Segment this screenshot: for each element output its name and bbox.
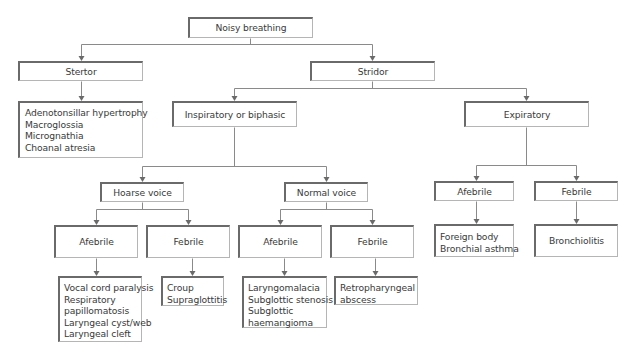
node-hoarse-afebrile: Afebrile xyxy=(54,225,138,258)
node-normal-voice: Normal voice xyxy=(284,182,368,202)
cause-item: abscess xyxy=(340,294,413,306)
cause-item: Respiratory xyxy=(64,294,140,306)
cause-item: Laryngeal cleft xyxy=(64,328,140,340)
node-label: Afebrile xyxy=(263,236,297,248)
node-label: Stridor xyxy=(358,66,388,78)
node-label: Hoarse voice xyxy=(113,187,171,199)
node-expiratory: Expiratory xyxy=(464,101,589,127)
node-label: Noisy breathing xyxy=(215,22,286,34)
node-normal-afebrile-causes: Laryngomalacia Subglottic stenosis Subgl… xyxy=(242,276,327,328)
cause-item: Foreign body xyxy=(440,231,512,243)
node-label: Afebrile xyxy=(79,236,113,248)
node-normal-afebrile: Afebrile xyxy=(238,225,322,258)
cause-item: Laryngeal cyst/web xyxy=(64,317,140,329)
cause-item: Micrognathia xyxy=(25,130,138,142)
node-label: Febrile xyxy=(357,236,387,248)
node-inspiratory-biphasic: Inspiratory or biphasic xyxy=(172,101,297,127)
node-normal-febrile-causes: Retropharyngeal abscess xyxy=(334,276,418,305)
node-label: Expiratory xyxy=(504,109,550,121)
node-expiratory-afebrile-causes: Foreign body Bronchial asthma xyxy=(434,224,514,257)
cause-item: Croup xyxy=(167,282,219,294)
cause-item: Adenotonsillar hypertrophy xyxy=(25,107,138,119)
cause-item: Subglottic xyxy=(248,305,325,317)
node-expiratory-febrile: Febrile xyxy=(534,181,618,201)
cause-item: Bronchial asthma xyxy=(440,243,512,255)
node-stertor-causes: Adenotonsillar hypertrophy Macroglossia … xyxy=(18,101,143,158)
node-stertor: Stertor xyxy=(18,61,143,81)
cause-item: Choanal atresia xyxy=(25,142,138,154)
node-noisy-breathing: Noisy breathing xyxy=(188,17,313,38)
node-hoarse-febrile: Febrile xyxy=(146,225,230,258)
node-hoarse-febrile-causes: Croup Supraglottitis xyxy=(161,276,224,306)
node-label: Stertor xyxy=(65,66,96,78)
node-label: Febrile xyxy=(561,186,591,198)
node-hoarse-voice: Hoarse voice xyxy=(100,182,184,202)
node-hoarse-afebrile-causes: Vocal cord paralysis Respiratory papillo… xyxy=(58,276,142,342)
cause-item: papillomatosis xyxy=(64,305,140,317)
node-normal-febrile: Febrile xyxy=(330,225,414,258)
node-expiratory-febrile-causes: Bronchiolitis xyxy=(534,224,618,257)
cause-item: Macroglossia xyxy=(25,119,138,131)
cause-item: Bronchiolitis xyxy=(549,235,604,247)
cause-item: Laryngomalacia xyxy=(248,282,325,294)
node-label: Inspiratory or biphasic xyxy=(185,109,286,121)
node-stridor: Stridor xyxy=(310,61,435,81)
node-label: Febrile xyxy=(173,236,203,248)
cause-item: Supraglottitis xyxy=(167,294,219,306)
cause-item: Subglottic stenosis xyxy=(248,294,325,306)
node-label: Normal voice xyxy=(297,187,356,199)
cause-item: Retropharyngeal xyxy=(340,282,413,294)
cause-item: Vocal cord paralysis xyxy=(64,282,140,294)
node-label: Afebrile xyxy=(457,186,491,198)
node-expiratory-afebrile: Afebrile xyxy=(434,181,514,201)
cause-item: haemangioma xyxy=(248,317,325,329)
